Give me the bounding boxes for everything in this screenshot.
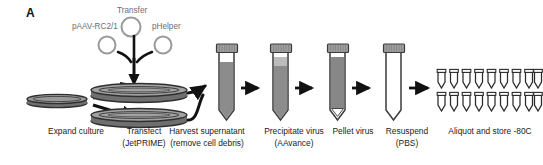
- dish-small: [27, 94, 87, 107]
- step-label-line1: Resuspend: [386, 126, 428, 136]
- tube-precipitate-virus: [271, 44, 292, 120]
- merge-arrow-to-tube: [188, 86, 205, 120]
- plasmid-circle-transfer: [122, 18, 141, 37]
- step-label-line1: Transfect: [127, 126, 162, 136]
- tube-pellet-virus: [328, 44, 349, 120]
- aliquot-vial-grid: [437, 69, 542, 111]
- figure-panel-a: A Transfer pAAV-RC2/1 pHelper: [0, 0, 543, 165]
- aliquot-vial-row-bottom: [437, 92, 542, 111]
- step-label-harvest-supernatant: Harvest supernatant (remove cell debris): [164, 126, 250, 149]
- step-label-line2: (remove cell debris): [164, 138, 250, 150]
- dish-large-bottom: [91, 109, 187, 128]
- step-label-aliquot-store: Aliquot and store -80C: [440, 126, 540, 138]
- aliquot-vial-row-top: [437, 69, 542, 88]
- tube-resuspend: [384, 44, 405, 120]
- step-label-line1: Pellet virus: [333, 126, 374, 136]
- plasmid-circle-phelper: [155, 37, 172, 54]
- tube-harvest-supernatant: [217, 44, 238, 120]
- step-label-line1: Expand culture: [48, 126, 104, 136]
- step-label-line1: Harvest supernatant: [169, 126, 244, 136]
- plasmid-circle-paav-rc21: [99, 37, 116, 54]
- step-label-line2: (AAvance): [256, 138, 332, 150]
- step-label-resuspend: Resuspend (PBS): [374, 126, 440, 149]
- step-label-line1: Aliquot and store -80C: [448, 126, 531, 136]
- step-label-line1: Precipitate virus: [264, 126, 324, 136]
- dish-large-top: [91, 84, 187, 103]
- step-label-line2: (PBS): [374, 138, 440, 150]
